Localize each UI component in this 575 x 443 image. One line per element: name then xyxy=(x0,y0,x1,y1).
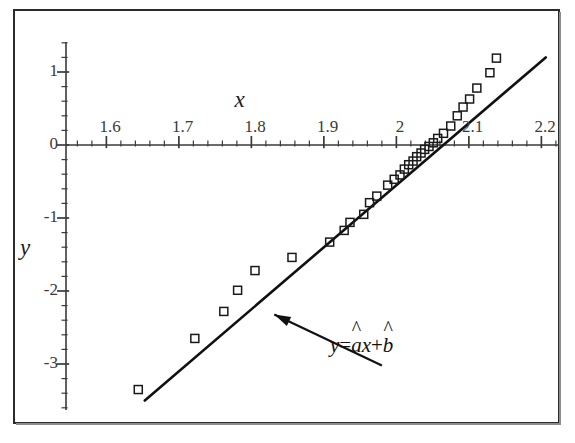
data-point-marker xyxy=(234,286,242,294)
equation-a-hat: ^a xyxy=(351,333,362,358)
scatter-plot-canvas xyxy=(0,0,575,443)
figure-container: 1.61.71.81.922.12.210-1-2-3 x y y=^ax+^b xyxy=(0,0,575,443)
equation-equals: = xyxy=(339,333,351,357)
data-point-marker xyxy=(486,69,494,77)
a-hat-accent: ^ xyxy=(351,319,362,339)
fit-equation-annotation: y=^ax+^b xyxy=(330,333,393,358)
equation-b-hat: ^b xyxy=(383,333,394,358)
x-tick-label: 1.6 xyxy=(94,117,126,137)
x-tick-label: 2.1 xyxy=(457,117,489,137)
y-axis xyxy=(57,42,69,410)
b-hat-accent: ^ xyxy=(383,319,394,339)
y-tick-label: -3 xyxy=(28,353,58,373)
equation-plus: + xyxy=(371,333,383,357)
x-axis xyxy=(66,136,558,148)
x-tick-label: 1.8 xyxy=(239,117,271,137)
x-tick-label: 1.7 xyxy=(167,117,199,137)
data-point-marker xyxy=(288,253,296,261)
equation-x: x xyxy=(362,333,371,357)
data-point-marker xyxy=(466,95,474,103)
equation-y: y xyxy=(330,333,339,357)
y-axis-title: y xyxy=(20,235,30,261)
y-tick-label: -1 xyxy=(28,207,58,227)
data-point-marker xyxy=(251,267,259,275)
y-tick-label: 1 xyxy=(28,61,58,81)
y-tick-label: -2 xyxy=(28,280,58,300)
x-tick-label: 2.2 xyxy=(529,117,561,137)
y-tick-label: 0 xyxy=(28,134,58,154)
data-point-marker xyxy=(492,54,500,62)
data-point-marker xyxy=(473,84,481,92)
data-point-marker xyxy=(191,334,199,342)
x-axis-title: x xyxy=(235,87,245,113)
data-point-marker xyxy=(134,386,142,394)
x-tick-label: 1.9 xyxy=(312,117,344,137)
data-point-markers xyxy=(134,54,500,393)
x-tick-label: 2 xyxy=(384,117,416,137)
data-point-marker xyxy=(459,103,467,111)
data-point-marker xyxy=(220,307,228,315)
